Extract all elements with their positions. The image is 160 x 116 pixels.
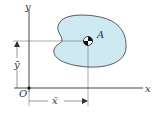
centroid-diagram: y x O A ȳ x̄ — [0, 0, 160, 116]
ybar-label: ȳ — [13, 59, 20, 70]
point-a-label: A — [96, 29, 104, 40]
x-axis-label: x — [145, 83, 151, 94]
origin-dot — [27, 86, 30, 89]
centroid-symbol-icon — [84, 37, 93, 46]
y-axis-label: y — [24, 1, 31, 12]
origin-label: O — [19, 88, 27, 99]
xbar-label: x̄ — [52, 95, 58, 106]
